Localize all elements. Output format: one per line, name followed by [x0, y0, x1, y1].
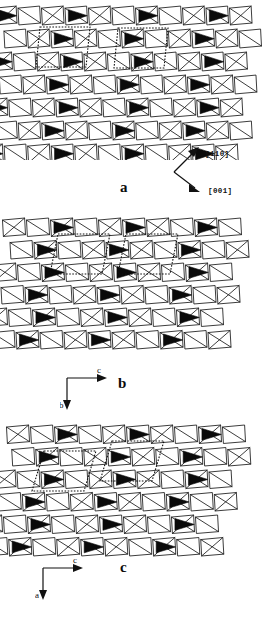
- direction-arrow-001: [001]: [174, 172, 233, 195]
- direction-label-001: [001]: [208, 187, 233, 195]
- figure-root: [110] [001] a c b b: [0, 0, 266, 627]
- axis-arrow-c-c: c: [43, 555, 83, 572]
- tetrahedron-outline: [98, 144, 121, 160]
- panel-a: [110] [001] a: [0, 0, 266, 210]
- structure-network-b: [0, 210, 266, 370]
- corner-axes-b: c b: [60, 368, 140, 416]
- direction-label-110: [110]: [205, 150, 230, 158]
- corner-axes-c: c a: [35, 555, 115, 607]
- axis-label-b-b: b: [60, 400, 64, 410]
- direction-axes-a: [110] [001]: [160, 140, 266, 202]
- axis-label-c-c: c: [73, 555, 77, 565]
- panel-b: c b b: [0, 210, 266, 415]
- tetrahedron-outline: [4, 144, 27, 160]
- panel-letter-b: b: [118, 376, 126, 391]
- axis-label-a-c: a: [35, 590, 39, 600]
- axis-label-c-b: c: [97, 368, 101, 375]
- tetrahedron-outline: [0, 470, 16, 488]
- tetrahedron-outline: [0, 263, 17, 281]
- panel-letter-a: a: [120, 180, 128, 195]
- direction-arrow-110: [110]: [174, 147, 230, 172]
- axis-arrow-c-b: c: [67, 368, 107, 382]
- structure-network-a: [0, 0, 266, 160]
- axis-arrow-b-b: b: [60, 378, 71, 410]
- tetrahedron-outline: [0, 144, 3, 160]
- panel-letter-c: c: [120, 560, 127, 575]
- tetrahedron-outline: [0, 121, 17, 140]
- tetrahedron-outline: [0, 493, 21, 511]
- structure-network-c: [0, 415, 266, 565]
- panel-c: c a c: [0, 415, 266, 627]
- axis-arrow-a-c: a: [35, 568, 47, 600]
